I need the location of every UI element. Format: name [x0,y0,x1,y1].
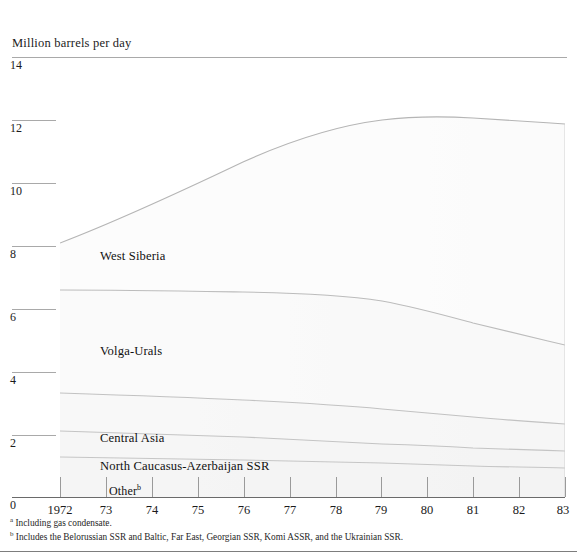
x-tick-line-75 [198,477,199,497]
gridline-8 [12,246,56,247]
x-axis-line [12,497,565,498]
series-label-volga-urals: Volga-Urals [100,344,162,359]
x-tick-line-83 [565,477,566,497]
series-label-north-caucasus-azerbaijan: North Caucasus-Azerbaijan SSR [100,459,269,474]
y-tick-label-14: 14 [10,59,22,71]
y-tick-label-6: 6 [10,311,16,323]
gridline-2 [12,435,56,436]
x-tick-line-79 [381,477,382,497]
x-tick-line-81 [473,477,474,497]
page-bottom-rule [0,551,577,552]
gridline-6 [12,309,56,310]
series-label-central-asia: Central Asia [100,431,164,446]
series-label-other-text: Other [109,484,137,498]
footnotes: a Including gas condensate. b Includes t… [10,516,570,545]
y-tick-label-8: 8 [10,248,16,260]
footnote-marker-b-inline: b [137,483,141,492]
y-tick-label-12: 12 [10,122,22,134]
x-tick-line-78 [336,477,337,497]
footnote-a-text: Including gas condensate. [15,518,111,528]
footnote-b-text: Includes the Belorussian SSR and Baltic,… [16,532,403,542]
y-axis-title: Million barrels per day [12,36,132,51]
x-tick-line-82 [519,477,520,497]
x-tick-line-73 [106,477,107,497]
footnote-marker-a: a [10,516,13,524]
footnote-a: a Including gas condensate. [10,516,570,530]
y-tick-label-0: 0 [10,499,16,511]
x-tick-line-77 [290,477,291,497]
y-tick-label-10: 10 [10,185,22,197]
footnote-b: b Includes the Belorussian SSR and Balti… [10,530,570,544]
y-tick-label-2: 2 [10,437,16,449]
gridline-4 [12,372,56,373]
x-tick-line-80 [427,477,428,497]
chart-figure: Million barrels per day 14 12 10 8 6 4 2… [0,0,577,553]
x-tick-line-76 [244,477,245,497]
footnote-marker-b: b [10,530,14,538]
series-label-other: Otherb [109,483,141,499]
x-tick-line-74 [152,477,153,497]
series-label-west-siberia: West Siberia [100,249,166,264]
y-tick-label-4: 4 [10,374,16,386]
x-tick-line-1972 [60,477,61,497]
